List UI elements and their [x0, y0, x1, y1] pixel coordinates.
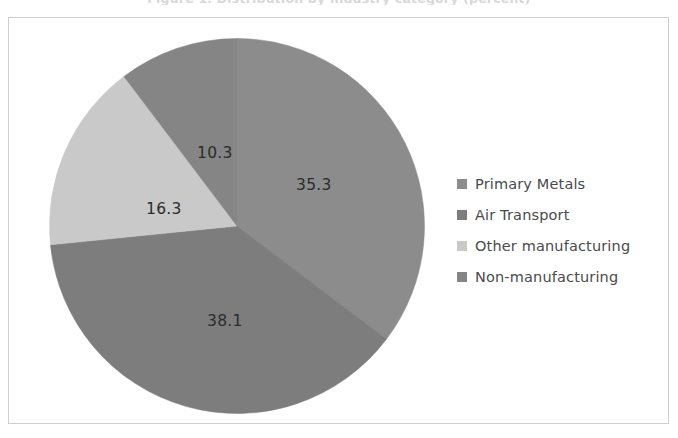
slice-value-label-non-manufacturing: 10.3 [197, 144, 233, 162]
legend-swatch-icon [457, 241, 467, 251]
legend-item-other-manufacturing[interactable]: Other manufacturing [457, 230, 662, 261]
slice-value-label-primary-metals: 35.3 [296, 176, 332, 194]
clipped-caption-text: Figure 1. Distribution by industry categ… [0, 0, 678, 5]
slice-value-label-air-transport: 38.1 [207, 312, 243, 330]
chart-frame: 35.3 38.1 16.3 10.3 Primary Metals Air T… [8, 17, 669, 424]
legend-swatch-icon [457, 272, 467, 282]
legend-label-air-transport: Air Transport [475, 207, 570, 223]
legend-label-primary-metals: Primary Metals [475, 176, 585, 192]
legend-swatch-icon [457, 179, 467, 189]
legend-item-air-transport[interactable]: Air Transport [457, 199, 662, 230]
legend-label-other-manufacturing: Other manufacturing [475, 238, 630, 254]
chart-legend: Primary Metals Air Transport Other manuf… [457, 168, 662, 292]
legend-item-non-manufacturing[interactable]: Non-manufacturing [457, 261, 662, 292]
pie-slice-group [50, 39, 425, 414]
legend-label-non-manufacturing: Non-manufacturing [475, 269, 618, 285]
legend-swatch-icon [457, 210, 467, 220]
pie-chart-svg [49, 38, 425, 414]
slice-value-label-other-manufacturing: 16.3 [146, 200, 182, 218]
legend-item-primary-metals[interactable]: Primary Metals [457, 168, 662, 199]
